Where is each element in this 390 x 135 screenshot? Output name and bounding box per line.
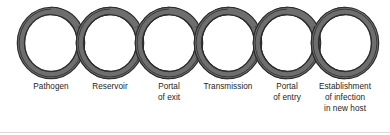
- ring-weave-layer: [78, 9, 377, 77]
- bottom-divider: [0, 132, 390, 133]
- link-label-line: of infection: [305, 92, 385, 103]
- link-label-line: Establishment: [305, 81, 385, 92]
- chain-of-infection-figure: Pathogen Reservoir Portal of exit Transm…: [0, 0, 390, 135]
- link-label-line: of exit: [129, 92, 209, 103]
- ring-group: [19, 9, 377, 77]
- link-label-line: in new host: [305, 103, 385, 114]
- chain-graphic: [0, 0, 390, 135]
- link-label-establishment-of-infection: Establishment of infection in new host: [305, 81, 385, 114]
